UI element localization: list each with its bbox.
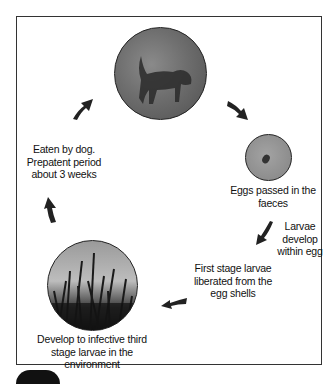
label-line: liberated from the — [188, 275, 278, 288]
label-line: Eaten by dog. — [24, 143, 104, 156]
label-eaten-by-dog: Eaten by dog. Prepatent period about 3 w… — [24, 143, 104, 181]
arrow-down-right-icon — [226, 97, 252, 123]
label-grass: Develop to infective third stage larvae … — [22, 333, 162, 371]
label-line: develop — [272, 233, 328, 246]
egg-dot-icon — [246, 135, 292, 181]
label-line: egg shells — [188, 287, 278, 300]
label-line: stage larvae in the environment — [22, 346, 162, 371]
label-line: First stage larvae — [188, 262, 278, 275]
arrow-up-right-icon — [70, 96, 96, 122]
arrow-up-icon — [42, 196, 58, 224]
label-line: Develop to infective third — [22, 333, 162, 346]
label-line: Prepatent period — [24, 156, 104, 169]
grass-blades-icon — [48, 241, 138, 331]
dog-silhouette-icon — [115, 28, 207, 120]
label-first-stage: First stage larvae liberated from the eg… — [188, 262, 278, 300]
dog-photo — [114, 27, 207, 120]
label-eggs-passed: Eggs passed in the faeces — [218, 184, 328, 209]
label-line: about 3 weeks — [24, 168, 104, 181]
grass-photo — [47, 240, 138, 331]
egg-micrograph — [245, 134, 292, 181]
label-line: within egg — [272, 245, 328, 258]
corner-tab — [16, 370, 60, 384]
arrow-left-icon — [160, 297, 188, 311]
arrow-down-left-icon — [254, 220, 274, 246]
label-line: Larvae — [272, 220, 328, 233]
label-larvae-develop: Larvae develop within egg — [272, 220, 328, 258]
